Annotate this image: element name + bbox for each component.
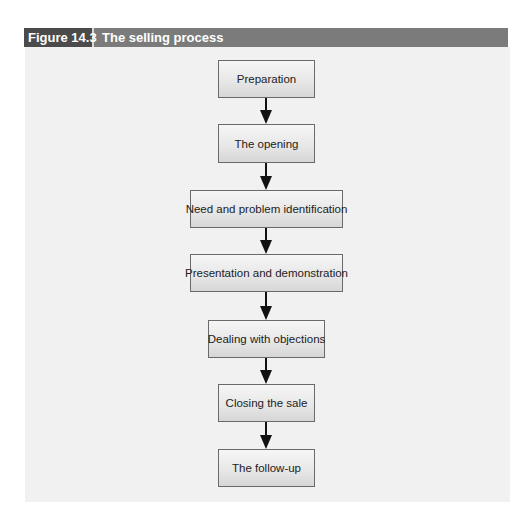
step-box-preparation: Preparation <box>218 60 315 98</box>
step-box-opening: The opening <box>218 124 315 163</box>
arrow-down-icon <box>260 228 272 254</box>
step-box-presentation: Presentation and demonstration <box>190 254 343 292</box>
step-label: The opening <box>235 138 299 150</box>
arrow-down-icon <box>260 292 272 320</box>
figure-number: Figure 14.3 <box>24 28 94 47</box>
step-label: Presentation and demonstration <box>185 267 348 279</box>
figure-title: The selling process <box>94 28 223 47</box>
arrow-down-icon <box>260 163 272 190</box>
arrow-down-icon <box>260 98 272 124</box>
step-box-need-identification: Need and problem identification <box>190 190 343 228</box>
step-label: Closing the sale <box>226 397 308 409</box>
step-box-objections: Dealing with objections <box>208 320 325 358</box>
arrow-down-icon <box>260 422 272 449</box>
step-label: Dealing with objections <box>208 333 326 345</box>
step-label: The follow-up <box>232 462 301 474</box>
arrow-down-icon <box>260 358 272 384</box>
step-label: Preparation <box>237 73 296 85</box>
figure-header: Figure 14.3 The selling process <box>24 28 508 47</box>
step-box-closing: Closing the sale <box>218 384 315 422</box>
step-label: Need and problem identification <box>186 203 348 215</box>
step-box-follow-up: The follow-up <box>218 449 315 487</box>
